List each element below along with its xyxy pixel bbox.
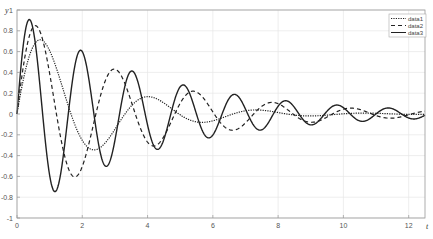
- y-tick-label: -0.6: [1, 173, 13, 180]
- legend-label-data2: data2: [408, 23, 424, 29]
- y-tick-label: 0.8: [3, 27, 13, 34]
- series-data3: [17, 20, 425, 192]
- y-tick-label: -1: [7, 215, 13, 222]
- plot-lines: [17, 20, 425, 192]
- y-tick-label: -0.4: [1, 152, 13, 159]
- series-data1: [17, 40, 425, 150]
- grid-lines: [17, 10, 425, 218]
- legend: data1data2data3: [389, 14, 426, 37]
- y-axis-label: y: [4, 6, 9, 15]
- y-tick-label: -0.8: [1, 194, 13, 201]
- y-tick-label: -0.2: [1, 131, 13, 138]
- x-tick-label: 2: [80, 222, 84, 229]
- line-chart: 024681012 -1-0.8-0.6-0.4-0.200.20.40.60.…: [0, 0, 433, 239]
- x-tick-label: 12: [405, 222, 413, 229]
- legend-label-data1: data1: [408, 16, 424, 22]
- x-tick-label: 6: [211, 222, 215, 229]
- x-tick-label: 8: [276, 222, 280, 229]
- y-tick-label: 0.2: [3, 90, 13, 97]
- x-tick-label: 10: [340, 222, 348, 229]
- x-tick-label: 0: [15, 222, 19, 229]
- x-tick-label: 4: [146, 222, 150, 229]
- y-tick-label: 0.4: [3, 69, 13, 76]
- legend-label-data3: data3: [408, 30, 424, 36]
- y-tick-label: 1: [9, 7, 13, 14]
- y-tick-label: 0.6: [3, 48, 13, 55]
- series-data2: [17, 26, 425, 177]
- x-axis-label: t: [426, 222, 429, 231]
- y-tick-label: 0: [9, 111, 13, 118]
- x-axis-ticks: 024681012: [15, 215, 413, 229]
